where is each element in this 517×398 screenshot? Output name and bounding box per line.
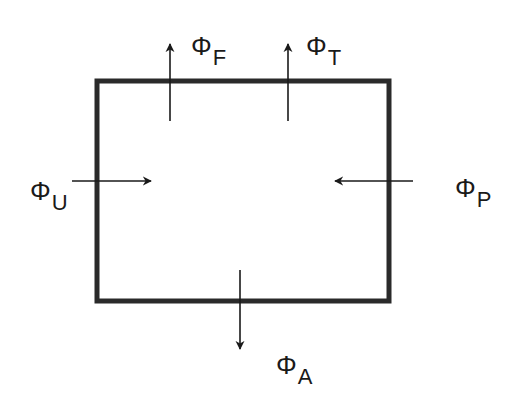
- subscript: T: [328, 45, 341, 70]
- phi-symbol: Φ: [455, 173, 476, 203]
- label-phi-t: ΦT: [306, 33, 341, 59]
- label-phi-a: ΦA: [276, 352, 312, 378]
- phi-symbol: Φ: [30, 176, 51, 206]
- flux-diagram: [0, 0, 517, 398]
- subscript: F: [213, 45, 226, 70]
- control-volume-box: [97, 81, 389, 301]
- phi-symbol: Φ: [191, 31, 212, 61]
- subscript: A: [298, 364, 313, 389]
- label-phi-f: ΦF: [191, 33, 226, 59]
- label-phi-p: ΦP: [455, 175, 491, 201]
- label-phi-u: ΦU: [30, 178, 68, 204]
- phi-symbol: Φ: [306, 31, 327, 61]
- phi-symbol: Φ: [276, 350, 297, 380]
- subscript: U: [52, 190, 68, 215]
- subscript: P: [477, 187, 492, 212]
